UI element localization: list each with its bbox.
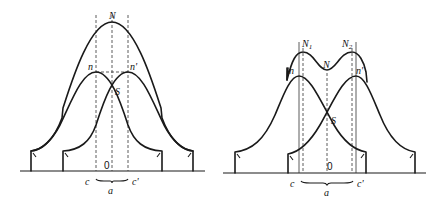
left-label-n-prime: n' — [130, 61, 138, 72]
right-label-origin: 0 — [327, 161, 333, 172]
left-brace-a — [96, 179, 128, 183]
left-label-S: S — [115, 86, 120, 97]
left-label-n: n — [88, 61, 93, 72]
right-panel: N1 N2 N n n' S 0 c c' a — [223, 38, 426, 198]
left-label-c: c — [85, 176, 90, 187]
right-label-N2: N2 — [341, 38, 353, 51]
right-label-c: c — [290, 178, 295, 189]
left-panel: N n n' S 0 c c' a — [20, 10, 205, 196]
right-label-n: n — [289, 65, 294, 76]
left-tick-3 — [157, 153, 160, 157]
left-label-c-prime: c' — [132, 176, 139, 187]
left-label-origin: 0 — [104, 160, 110, 171]
left-tick-1 — [33, 153, 36, 157]
right-tick-3 — [361, 154, 364, 158]
right-label-n-prime: n' — [356, 65, 364, 76]
left-tick-4 — [188, 153, 191, 157]
left-label-N: N — [108, 10, 117, 21]
right-tick-2 — [290, 156, 293, 160]
left-tick-2 — [65, 153, 68, 157]
diagram-canvas: N n n' S 0 c c' a N1 — [0, 0, 441, 203]
right-tick-1 — [237, 154, 240, 158]
right-label-a: a — [324, 187, 329, 198]
right-component-curve-n — [235, 76, 366, 173]
right-component-curve-n-prime — [288, 76, 415, 173]
left-label-a: a — [108, 185, 113, 196]
right-tick-4 — [410, 154, 413, 158]
right-brace-a — [301, 181, 353, 185]
right-label-c-prime: c' — [357, 178, 364, 189]
right-label-N: N — [322, 59, 331, 70]
right-label-S: S — [331, 115, 336, 126]
